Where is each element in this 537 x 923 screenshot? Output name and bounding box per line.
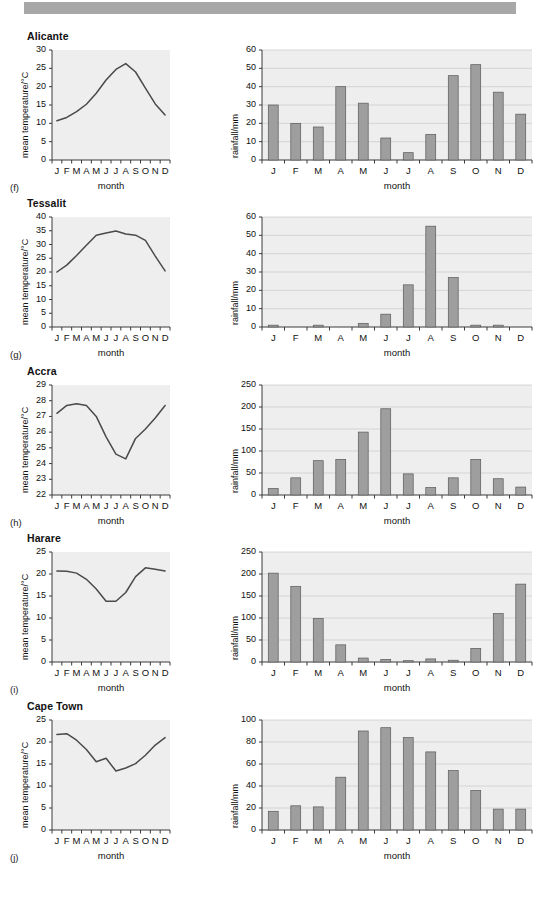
y-tick-label: 25: [12, 546, 46, 556]
bar: [448, 660, 458, 662]
month-tick-label: O: [466, 332, 486, 343]
month-tick-label: A: [421, 500, 441, 511]
x-axis-title: month: [52, 515, 170, 526]
month-tick-label: D: [511, 835, 531, 846]
y-axis-title: mean temperature/°C: [20, 407, 30, 493]
y-axis-title: mean temperature/°C: [20, 72, 30, 158]
bar: [448, 478, 458, 495]
month-tick-label: A: [331, 165, 351, 176]
y-tick-label: 250: [222, 379, 256, 389]
month-tick-label: F: [286, 500, 306, 511]
x-axis-title: month: [52, 682, 170, 693]
bar: [336, 87, 346, 160]
bar: [516, 114, 526, 160]
month-tick-label: O: [466, 835, 486, 846]
bar: [381, 409, 391, 495]
month-tick-label: F: [286, 835, 306, 846]
bar: [403, 738, 413, 830]
y-tick-label: 40: [222, 81, 256, 91]
y-axis-title: mean temperature/°C: [20, 742, 30, 828]
rainfall-chart: 020406080100JFMAMJJASONDmonthrainfall/mm: [222, 714, 537, 864]
bar: [336, 645, 346, 662]
temperature-chart: 0510152025303540JFMAMJJASONDmonthmean te…: [12, 211, 176, 361]
month-tick-label: M: [353, 667, 373, 678]
bar: [381, 138, 391, 160]
y-tick-label: 40: [222, 248, 256, 258]
temperature-chart: 2223242526272829JFMAMJJASONDmonthmean te…: [12, 379, 176, 529]
month-tick-label: M: [353, 165, 373, 176]
month-tick-label: N: [488, 667, 508, 678]
y-tick-label: 25: [12, 62, 46, 72]
month-tick-label: A: [331, 500, 351, 511]
bar: [471, 325, 481, 327]
month-tick-label: N: [488, 835, 508, 846]
x-axis-title: month: [52, 347, 170, 358]
bar: [358, 103, 368, 160]
bar: [403, 285, 413, 327]
month-tick-label: M: [353, 500, 373, 511]
bar: [313, 127, 323, 160]
month-tick-label: S: [443, 165, 463, 176]
x-axis-title: month: [262, 850, 532, 861]
bar: [426, 659, 436, 662]
month-tick-label: D: [511, 165, 531, 176]
bar: [336, 459, 346, 495]
month-tick-label: M: [308, 500, 328, 511]
climate-panel-row: Tessalit(g)0510152025303540JFMAMJJASONDm…: [0, 197, 516, 367]
x-axis-title: month: [52, 850, 170, 861]
month-tick-label: N: [488, 332, 508, 343]
bar: [403, 474, 413, 495]
bar: [471, 459, 481, 495]
y-axis-title: rainfall/mm: [230, 114, 240, 158]
y-tick-label: 150: [222, 590, 256, 600]
rainfall-chart: 0102030405060JFMAMJJASONDmonthrainfall/m…: [222, 211, 537, 361]
y-tick-label: 25: [12, 714, 46, 724]
bar: [313, 325, 323, 327]
y-tick-label: 100: [222, 714, 256, 724]
month-tick-label: N: [488, 500, 508, 511]
bar: [516, 487, 526, 495]
bar: [471, 790, 481, 830]
y-tick-label: 200: [222, 401, 256, 411]
month-tick-label: O: [466, 500, 486, 511]
month-tick-label: A: [421, 667, 441, 678]
month-tick-label: N: [488, 165, 508, 176]
bar: [313, 807, 323, 830]
y-tick-label: 30: [222, 99, 256, 109]
bar: [268, 488, 278, 495]
y-tick-label: 50: [222, 62, 256, 72]
month-tick-label: J: [398, 835, 418, 846]
month-tick-label: A: [331, 667, 351, 678]
y-axis-title: rainfall/mm: [230, 449, 240, 493]
bar: [448, 76, 458, 160]
temperature-chart: 0510152025JFMAMJJASONDmonthmean temperat…: [12, 546, 176, 696]
bar: [268, 325, 278, 327]
month-tick-label: J: [376, 835, 396, 846]
month-tick-label: M: [353, 332, 373, 343]
rainfall-chart: 050100150200250JFMAMJJASONDmonthrainfall…: [222, 546, 537, 696]
bar: [426, 226, 436, 327]
month-tick-label: M: [353, 835, 373, 846]
y-axis-title: rainfall/mm: [230, 281, 240, 325]
climate-panel-row: Harare(i)0510152025JFMAMJJASONDmonthmean…: [0, 532, 516, 702]
bar: [426, 752, 436, 830]
x-axis-title: month: [262, 515, 532, 526]
climate-panel-row: Alicante(f)051015202530JFMAMJJASONDmonth…: [0, 30, 516, 200]
y-tick-label: 29: [12, 379, 46, 389]
y-tick-label: 30: [12, 44, 46, 54]
month-tick-label: S: [443, 500, 463, 511]
page-top-bar: [24, 2, 516, 14]
bar: [448, 771, 458, 830]
month-tick-label: D: [511, 667, 531, 678]
y-tick-label: 40: [12, 211, 46, 221]
y-tick-label: 60: [222, 44, 256, 54]
bar: [381, 659, 391, 662]
bar: [493, 614, 503, 662]
bar: [516, 584, 526, 662]
bar: [358, 432, 368, 495]
bar: [313, 461, 323, 495]
month-tick-label: J: [398, 332, 418, 343]
month-tick-label: S: [443, 835, 463, 846]
y-tick-label: 200: [222, 568, 256, 578]
city-title: Tessalit: [27, 197, 66, 209]
